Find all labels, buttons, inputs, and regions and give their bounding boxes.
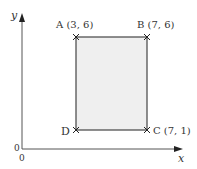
point-d-label: D — [61, 125, 70, 138]
origin-y-label: 0 — [14, 143, 20, 153]
x-axis-label: x — [178, 152, 185, 165]
rectangle-abcd — [76, 37, 147, 130]
point-b-label: B (7, 6) — [137, 19, 175, 30]
point-c-label: C (7, 1) — [153, 125, 191, 136]
origin-x-label: 0 — [19, 153, 25, 163]
point-a-label: A (3, 6) — [55, 19, 93, 30]
coordinate-diagram: A (3, 6) B (7, 6) C (7, 1) D y x 0 0 — [0, 0, 197, 169]
y-axis-arrow-icon — [19, 13, 25, 22]
y-axis-label: y — [10, 9, 18, 22]
